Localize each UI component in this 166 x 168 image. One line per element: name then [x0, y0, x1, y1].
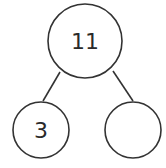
whole-value: 11	[71, 29, 99, 54]
part-left-value: 3	[34, 118, 48, 143]
connector-right	[113, 71, 133, 101]
number-bond-diagram: 11 3	[0, 0, 166, 168]
connector-left	[43, 72, 60, 101]
part-circle-right[interactable]	[105, 102, 161, 158]
